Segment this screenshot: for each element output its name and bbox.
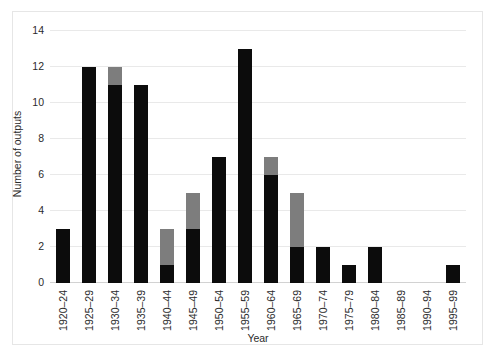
x-tick-label: 1920–24 xyxy=(57,290,69,331)
bar-stack xyxy=(134,85,148,283)
bar-column[interactable]: 1970–74 xyxy=(316,31,330,283)
bar-stack xyxy=(264,157,278,283)
bar-segment-black xyxy=(212,157,226,283)
bar-stack xyxy=(82,67,96,283)
bar-segment-black xyxy=(160,265,174,283)
bar-segment-black xyxy=(134,85,148,283)
x-tick-label: 1990–94 xyxy=(421,290,433,331)
x-tick-label: 1985–89 xyxy=(395,290,407,331)
y-tick-label: 4 xyxy=(38,204,44,216)
bar-stack xyxy=(342,265,356,283)
bar-segment-black xyxy=(342,265,356,283)
bar-segment-black xyxy=(82,67,96,283)
bar-stack xyxy=(160,229,174,283)
x-tick-label: 1955–59 xyxy=(239,290,251,331)
bar-column[interactable]: 1955–59 xyxy=(238,31,252,283)
y-tick-label: 8 xyxy=(38,132,44,144)
bar-stack xyxy=(368,247,382,283)
bar-segment-gray xyxy=(108,67,122,85)
x-tick-label: 1950–54 xyxy=(213,290,225,331)
bar-column[interactable]: 1980–84 xyxy=(368,31,382,283)
bar-segment-black xyxy=(56,229,70,283)
bar-column[interactable]: 1935–39 xyxy=(134,31,148,283)
bar-column[interactable]: 1995–99 xyxy=(446,31,460,283)
y-tick-label: 6 xyxy=(38,168,44,180)
bar-stack xyxy=(446,265,460,283)
bar-column[interactable]: 1930–34 xyxy=(108,31,122,283)
bar-segment-black xyxy=(446,265,460,283)
bar-stack xyxy=(290,193,304,283)
y-tick-label: 2 xyxy=(38,240,44,252)
bar-segment-black xyxy=(316,247,330,283)
bar-column[interactable]: 1960–64 xyxy=(264,31,278,283)
bar-segment-black xyxy=(290,247,304,283)
bar-segment-gray xyxy=(160,229,174,265)
bar-column[interactable]: 1945–49 xyxy=(186,31,200,283)
bar-segment-black xyxy=(186,229,200,283)
bar-column[interactable]: 1920–24 xyxy=(56,31,70,283)
bar-stack xyxy=(212,157,226,283)
bar-column[interactable]: 1990–94 xyxy=(420,31,434,283)
y-tick-label: 14 xyxy=(32,24,44,36)
bar-segment-black xyxy=(368,247,382,283)
x-tick-label: 1995–99 xyxy=(447,290,459,331)
y-axis-title: Number of outputs xyxy=(11,74,23,234)
x-tick-label: 1975–79 xyxy=(343,290,355,331)
bar-segment-black xyxy=(264,175,278,283)
bar-column[interactable]: 1925–29 xyxy=(82,31,96,283)
bar-stack xyxy=(56,229,70,283)
bar-segment-gray xyxy=(186,193,200,229)
bar-column[interactable]: 1985–89 xyxy=(394,31,408,283)
x-tick-label: 1935–39 xyxy=(135,290,147,331)
y-tick-label: 10 xyxy=(32,96,44,108)
bar-stack xyxy=(316,247,330,283)
bar-segment-black xyxy=(238,49,252,283)
x-tick-label: 1925–29 xyxy=(83,290,95,331)
x-tick-label: 1940–44 xyxy=(161,290,173,331)
bar-stack xyxy=(186,193,200,283)
x-tick-label: 1970–74 xyxy=(317,290,329,331)
bar-column[interactable]: 1950–54 xyxy=(212,31,226,283)
x-axis-title: Year xyxy=(50,332,466,344)
x-tick-label: 1930–34 xyxy=(109,290,121,331)
x-tick-label: 1965–69 xyxy=(291,290,303,331)
x-tick-label: 1980–84 xyxy=(369,290,381,331)
bar-chart-figure: Number of outputs 02468101214 1920–24192… xyxy=(0,0,496,360)
bar-column[interactable]: 1975–79 xyxy=(342,31,356,283)
bar-group: 1920–241925–291930–341935–391940–441945–… xyxy=(50,31,466,283)
x-tick-label: 1960–64 xyxy=(265,290,277,331)
y-tick-label: 0 xyxy=(38,276,44,288)
x-tick-label: 1945–49 xyxy=(187,290,199,331)
bar-column[interactable]: 1940–44 xyxy=(160,31,174,283)
bar-column[interactable]: 1965–69 xyxy=(290,31,304,283)
bar-stack xyxy=(238,49,252,283)
y-tick-label: 12 xyxy=(32,60,44,72)
bar-stack xyxy=(108,67,122,283)
bar-segment-black xyxy=(108,85,122,283)
bar-segment-gray xyxy=(290,193,304,247)
bar-segment-gray xyxy=(264,157,278,175)
plot-area: 02468101214 1920–241925–291930–341935–39… xyxy=(50,31,466,283)
